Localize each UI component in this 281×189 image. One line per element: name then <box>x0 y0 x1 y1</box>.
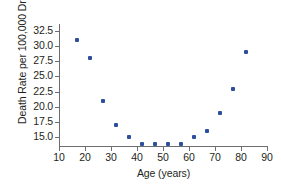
x-tick-label: 60 <box>177 152 201 163</box>
y-tick-label: 20.0 <box>33 101 53 111</box>
y-tick-label: 17.5 <box>33 116 53 126</box>
y-tick-label: 25.0 <box>33 70 53 80</box>
data-point <box>205 129 209 133</box>
x-tick-label: 80 <box>229 152 253 163</box>
x-tick-label: 10 <box>47 152 71 163</box>
y-tick-label: 22.5 <box>33 86 53 96</box>
x-tick-label: 20 <box>73 152 97 163</box>
y-tick-label: 32.5 <box>33 25 53 35</box>
plot-area <box>59 24 267 146</box>
data-point <box>127 135 131 139</box>
y-tick-label: 27.5 <box>33 55 53 65</box>
y-tick-label: 30.0 <box>33 40 53 50</box>
x-axis-title: Age (years) <box>59 167 268 179</box>
data-point <box>179 142 183 146</box>
y-tick-label: 15.0 <box>33 131 53 141</box>
data-point <box>101 99 105 103</box>
data-point <box>153 142 157 146</box>
scatter-plot-figure: Death Rate per 100,000 Drivers 15.017.52… <box>0 0 281 189</box>
data-point <box>114 123 118 127</box>
data-point <box>231 87 235 91</box>
y-axis-title-container: Death Rate per 100,000 Drivers <box>0 0 20 189</box>
data-point <box>218 111 222 115</box>
x-tick-label: 90 <box>255 152 279 163</box>
x-tick-label: 30 <box>99 152 123 163</box>
x-tick-label: 50 <box>151 152 175 163</box>
data-point <box>88 56 92 60</box>
data-point <box>140 142 144 146</box>
y-axis-title: Death Rate per 100,000 Drivers <box>16 0 28 124</box>
data-point <box>192 135 196 139</box>
data-point <box>244 50 248 54</box>
x-tick-label: 40 <box>125 152 149 163</box>
x-tick-label: 70 <box>203 152 227 163</box>
data-point <box>75 38 79 42</box>
data-point <box>166 142 170 146</box>
